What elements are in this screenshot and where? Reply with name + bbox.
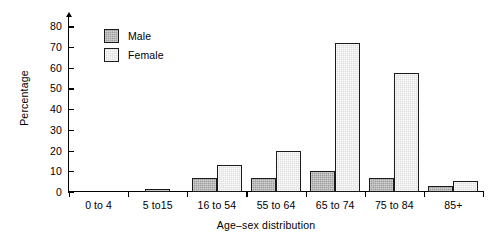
bar-female-6 xyxy=(453,181,478,192)
x-category-label: 5 to15 xyxy=(143,199,173,211)
x-category-label: 0 to 4 xyxy=(85,199,112,211)
x-axis-title: Age–sex distribution xyxy=(0,219,498,231)
bar-male-5 xyxy=(369,178,394,192)
legend-item-male: Male xyxy=(104,26,164,45)
x-tick xyxy=(246,191,247,197)
legend-swatch-male-icon xyxy=(104,29,119,43)
bar-male-2 xyxy=(192,178,217,192)
x-axis-title-text: Age–sex distribution xyxy=(217,219,316,231)
bar-male-3 xyxy=(251,178,276,192)
y-axis-title: Percentage xyxy=(18,38,30,158)
y-tick-label: 40 xyxy=(14,103,62,115)
bar-female-4 xyxy=(335,43,360,192)
legend-item-female: Female xyxy=(104,45,164,64)
x-tick xyxy=(424,191,425,197)
x-category-label: 65 to 74 xyxy=(316,199,355,211)
legend: Male Female xyxy=(104,26,164,64)
legend-label-male: Male xyxy=(128,30,151,42)
bar-female-2 xyxy=(217,165,242,192)
x-tick xyxy=(365,191,366,197)
x-tick xyxy=(483,191,484,197)
x-tick xyxy=(128,191,129,197)
bar-male-4 xyxy=(310,171,335,192)
x-tick xyxy=(69,191,70,197)
bar-male-6 xyxy=(428,186,453,192)
x-category-label: 55 to 64 xyxy=(257,199,296,211)
x-tick xyxy=(306,191,307,197)
y-tick-label: 30 xyxy=(14,124,62,136)
y-tick-label: 70 xyxy=(14,41,62,53)
bar-female-3 xyxy=(276,151,301,192)
bar-chart: Percentage 01020304050607080 0 to 45 to1… xyxy=(0,0,498,240)
bar-female-5 xyxy=(394,73,419,192)
y-tick-label: 10 xyxy=(14,165,62,177)
legend-swatch-female-icon xyxy=(104,48,119,62)
bar-male-1 xyxy=(145,189,170,192)
y-tick-label: 50 xyxy=(14,82,62,94)
y-tick-label: 80 xyxy=(14,20,62,32)
x-category-label: 75 to 84 xyxy=(375,199,414,211)
legend-label-female: Female xyxy=(128,49,164,61)
x-tick xyxy=(187,191,188,197)
y-tick-label: 60 xyxy=(14,62,62,74)
x-category-label: 16 to 54 xyxy=(197,199,236,211)
y-tick-label: 20 xyxy=(14,145,62,157)
x-category-label: 85+ xyxy=(444,199,462,211)
y-tick-label: 0 xyxy=(14,186,62,198)
